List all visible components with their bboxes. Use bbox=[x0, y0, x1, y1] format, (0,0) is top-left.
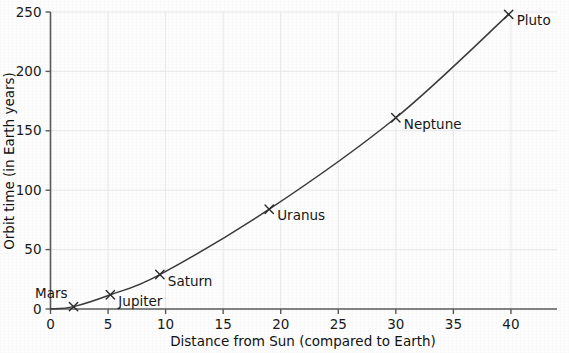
data-curve bbox=[51, 14, 509, 309]
data-markers-group bbox=[69, 10, 513, 311]
x-tick-label: 10 bbox=[157, 316, 174, 332]
x-tick-label: 5 bbox=[104, 316, 113, 332]
data-marker bbox=[504, 10, 512, 18]
x-axis-title: Distance from Sun (compared to Earth) bbox=[170, 333, 436, 349]
point-label-mars: Mars bbox=[35, 285, 68, 301]
point-label-saturn: Saturn bbox=[168, 273, 213, 289]
point-label-neptune: Neptune bbox=[404, 116, 462, 132]
y-tick-label: 100 bbox=[16, 182, 42, 198]
y-axis-title: Orbit time (in Earth years) bbox=[1, 72, 17, 250]
point-label-jupiter: Jupiter bbox=[117, 293, 162, 309]
x-tick-label: 20 bbox=[272, 316, 289, 332]
x-tick-label: 35 bbox=[445, 316, 462, 332]
point-label-pluto: Pluto bbox=[517, 12, 551, 28]
tick-marks-group bbox=[46, 12, 511, 314]
point-labels-group: MarsJupiterSaturnUranusNeptunePluto bbox=[35, 12, 551, 308]
data-marker bbox=[265, 205, 273, 213]
y-tick-label: 150 bbox=[16, 122, 42, 138]
data-marker bbox=[106, 291, 114, 299]
x-tick-label: 25 bbox=[330, 316, 347, 332]
orbit-time-chart: 050100150200250 0510152025303540 MarsJup… bbox=[0, 0, 569, 353]
y-tick-label: 250 bbox=[16, 4, 42, 20]
x-tick-label: 0 bbox=[46, 316, 55, 332]
x-tick-label: 30 bbox=[387, 316, 404, 332]
y-tick-labels-group: 050100150200250 bbox=[16, 4, 42, 317]
y-tick-label: 200 bbox=[16, 63, 42, 79]
data-marker bbox=[156, 270, 164, 278]
x-tick-label: 40 bbox=[502, 316, 519, 332]
gridlines-group bbox=[51, 12, 558, 309]
y-tick-label: 0 bbox=[33, 301, 42, 317]
y-tick-label: 50 bbox=[24, 241, 41, 257]
chart-canvas: 050100150200250 0510152025303540 MarsJup… bbox=[0, 0, 569, 353]
x-tick-labels-group: 0510152025303540 bbox=[46, 316, 519, 332]
point-label-uranus: Uranus bbox=[277, 207, 325, 223]
x-tick-label: 15 bbox=[215, 316, 232, 332]
